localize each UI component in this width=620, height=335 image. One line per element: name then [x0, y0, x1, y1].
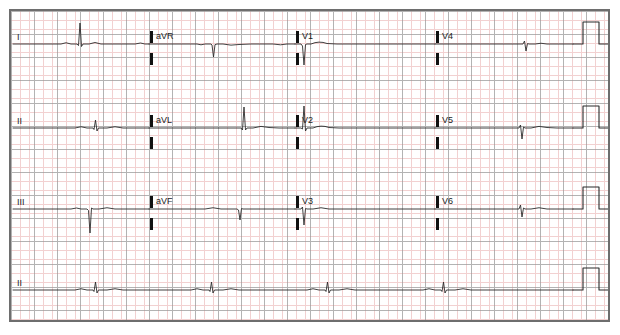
trace-lead-V3	[295, 207, 435, 225]
cal-tick-V2-upper	[296, 115, 299, 127]
cal-tick-aVL-lower	[150, 137, 153, 149]
ecg-paper: I aVR V1 V4 II aVL V2 V5 III aVF V3 V6	[9, 9, 610, 322]
cal-tick-V3-lower	[296, 218, 299, 230]
lead-label-aVR: aVR	[156, 32, 174, 41]
cal-tick-V3-upper	[296, 196, 299, 208]
cal-tick-aVR-lower	[150, 53, 153, 65]
cal-tick-aVF-lower	[150, 218, 153, 230]
ecg-screenshot: I aVR V1 V4 II aVL V2 V5 III aVF V3 V6	[0, 0, 620, 335]
cal-tick-V2-lower	[296, 137, 299, 149]
cal-tick-V5-lower	[436, 137, 439, 149]
lead-label-aVF: aVF	[156, 197, 173, 206]
trace-lead-I	[13, 23, 149, 47]
trace-lead-V6	[435, 205, 573, 217]
trace-lead-V2	[295, 106, 435, 131]
lead-label-V3: V3	[302, 197, 313, 206]
cal-tick-V6-upper	[436, 196, 439, 208]
trace-lead-V4	[435, 41, 573, 51]
cal-tick-V4-lower	[436, 53, 439, 65]
cal-tick-V1-lower	[296, 53, 299, 65]
lead-label-aVL: aVL	[156, 116, 172, 125]
cal-tick-V4-upper	[436, 31, 439, 43]
cal-tick-V6-lower	[436, 218, 439, 230]
lead-label-I: I	[17, 33, 20, 42]
cal-tick-aVF-upper	[150, 196, 153, 208]
cal-tick-V5-upper	[436, 115, 439, 127]
calibration-pulse-row-2	[573, 106, 608, 128]
cal-tick-V1-upper	[296, 31, 299, 43]
lead-label-V4: V4	[442, 32, 453, 41]
calibration-pulse-row-1	[573, 22, 608, 44]
trace-lead-III	[13, 208, 149, 233]
lead-label-V1: V1	[302, 32, 313, 41]
trace-lead-aVF	[149, 208, 295, 220]
trace-lead-aVR	[149, 44, 295, 57]
calibration-pulse-row-4	[573, 268, 608, 290]
trace-lead-V5	[435, 125, 573, 139]
lead-label-III: III	[17, 198, 25, 207]
lead-label-V5: V5	[442, 116, 453, 125]
lead-label-V2: V2	[302, 116, 313, 125]
trace-lead-V1	[295, 42, 435, 65]
trace-rhythm-strip-II	[13, 282, 573, 293]
calibration-pulse-row-3	[573, 187, 608, 209]
cal-tick-aVL-upper	[150, 115, 153, 127]
ecg-trace-layer	[11, 11, 610, 322]
lead-label-V6: V6	[442, 197, 453, 206]
lead-label-II: II	[17, 117, 22, 126]
cal-tick-aVR-upper	[150, 31, 153, 43]
lead-label-rhythm-II: II	[17, 279, 22, 288]
trace-lead-II	[13, 120, 149, 131]
